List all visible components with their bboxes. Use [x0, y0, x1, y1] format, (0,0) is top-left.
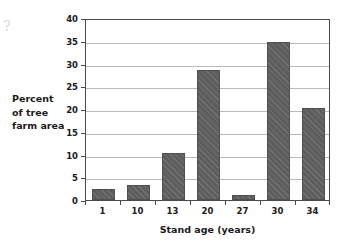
y-tick-label: 25	[62, 82, 78, 92]
bar	[232, 195, 255, 200]
y-tick-label: 30	[62, 60, 78, 70]
x-tick-label: 30	[272, 206, 284, 216]
y-tick-label: 20	[62, 105, 78, 115]
bar	[302, 108, 325, 200]
bars-group	[86, 20, 329, 200]
x-tick-label: 34	[307, 206, 319, 216]
x-tick-label: 20	[202, 206, 214, 216]
bar	[267, 42, 290, 200]
x-axis-tick-labels: 1101320273034	[85, 206, 330, 220]
bar-chart-figure: ? Percent of tree farm area 051015202530…	[0, 0, 347, 245]
y-tick-label: 10	[62, 151, 78, 161]
y-tick-label: 0	[62, 196, 78, 206]
x-tick-mark	[329, 201, 330, 205]
y-tick-label: 15	[62, 128, 78, 138]
bar	[162, 153, 185, 200]
y-axis-ticks: 0510152025303540	[62, 19, 85, 201]
y-tick-label: 5	[62, 173, 78, 183]
x-tick-mark	[155, 201, 156, 205]
x-tick-mark	[190, 201, 191, 205]
bar	[92, 189, 115, 200]
x-tick-mark	[225, 201, 226, 205]
x-tick-label: 27	[237, 206, 249, 216]
bar	[197, 70, 220, 200]
x-tick-label: 1	[100, 206, 106, 216]
x-axis-title: Stand age (years)	[85, 224, 330, 235]
bar	[127, 185, 150, 200]
x-tick-mark	[260, 201, 261, 205]
y-tick-label: 35	[62, 37, 78, 47]
x-tick-mark	[295, 201, 296, 205]
y-tick-label: 40	[62, 14, 78, 24]
x-tick-label: 10	[132, 206, 144, 216]
x-tick-label: 13	[167, 206, 179, 216]
scan-artifact-mark: ?	[3, 18, 10, 34]
plot-area	[85, 19, 330, 201]
x-tick-mark	[120, 201, 121, 205]
x-tick-mark	[85, 201, 86, 205]
